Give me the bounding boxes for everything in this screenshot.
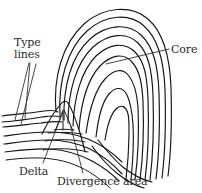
type-line-upper (2, 110, 58, 116)
label-divergence-area: Divergence area (57, 176, 148, 188)
leader-lines (15, 49, 169, 173)
fingerprint-diagram: Type lines Core Delta Divergence area (0, 0, 202, 193)
delta-triangle-left (55, 110, 63, 131)
ridge-outer-1 (55, 9, 171, 176)
label-delta: Delta (19, 166, 48, 178)
type-line-3 (3, 122, 62, 127)
delta-cross-ridges (43, 132, 88, 152)
label-type-lines-line2: lines (14, 49, 41, 61)
leader-delta (43, 112, 63, 163)
ridge-group-loop (55, 9, 171, 181)
label-core: Core (171, 44, 197, 56)
leader-type-lines-a (15, 63, 29, 120)
ridge-outer-4 (68, 36, 153, 180)
ridge-group-type-lines (2, 110, 62, 127)
label-type-lines: Type lines (14, 37, 41, 60)
leader-type-lines-c (21, 64, 36, 124)
